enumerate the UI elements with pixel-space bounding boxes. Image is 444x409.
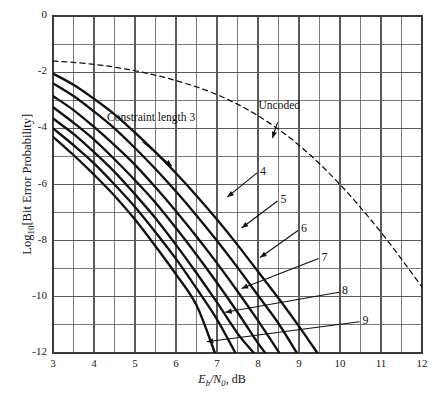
x-tick-label-8: 8	[243, 357, 273, 369]
x-tick-label-5: 5	[120, 357, 150, 369]
chart-figure: Log10[Bit Error Probability] Eb/N0, dB 4…	[0, 0, 444, 409]
series-line-constraint-length-9	[53, 137, 215, 353]
y-tick-label-0: 0	[17, 8, 47, 20]
y-tick-label-neg4: -4	[17, 120, 47, 132]
x-axis-title-eb: E	[198, 372, 205, 386]
y-tick-label-neg10: -10	[17, 289, 47, 301]
curve-label-leader-5	[242, 201, 278, 228]
curve-label-arrow-5	[242, 222, 249, 228]
curve-label-leader-7	[242, 259, 319, 289]
curve-label-5: 5	[281, 192, 287, 207]
x-tick-label-7: 7	[202, 357, 232, 369]
annotation-constraint-length-3: Constraint length 3	[107, 111, 179, 124]
y-tick-label-neg6: -6	[17, 177, 47, 189]
annotation-arrow-0	[272, 131, 277, 138]
curve-label-leader-6	[260, 230, 298, 257]
curve-label-9: 9	[363, 313, 369, 328]
curve-label-6: 6	[301, 221, 307, 236]
curve-label-4: 4	[260, 164, 266, 179]
x-tick-label-11: 11	[366, 357, 396, 369]
x-axis-title-n: /N	[210, 372, 221, 386]
chart-plot-area	[0, 0, 444, 409]
x-axis-title: Eb/N0, dB	[0, 372, 444, 388]
x-axis-title-units: , dB	[226, 372, 246, 386]
y-tick-label-neg12: -12	[17, 345, 47, 357]
annotation-uncoded: Uncoded	[259, 99, 301, 112]
curve-label-7: 7	[322, 250, 328, 265]
curve-label-arrow-8	[225, 309, 232, 314]
curve-label-arrow-6	[260, 252, 267, 258]
x-tick-label-3: 3	[38, 357, 68, 369]
y-tick-label-neg2: -2	[17, 64, 47, 76]
curve-label-8: 8	[342, 283, 348, 298]
x-tick-label-12: 12	[407, 357, 437, 369]
x-tick-label-9: 9	[284, 357, 314, 369]
y-tick-label-neg8: -8	[17, 233, 47, 245]
curve-label-arrow-7	[242, 284, 249, 289]
curve-label-leader-8	[225, 292, 339, 312]
x-tick-label-6: 6	[161, 357, 191, 369]
x-tick-label-4: 4	[79, 357, 109, 369]
x-tick-label-10: 10	[325, 357, 355, 369]
